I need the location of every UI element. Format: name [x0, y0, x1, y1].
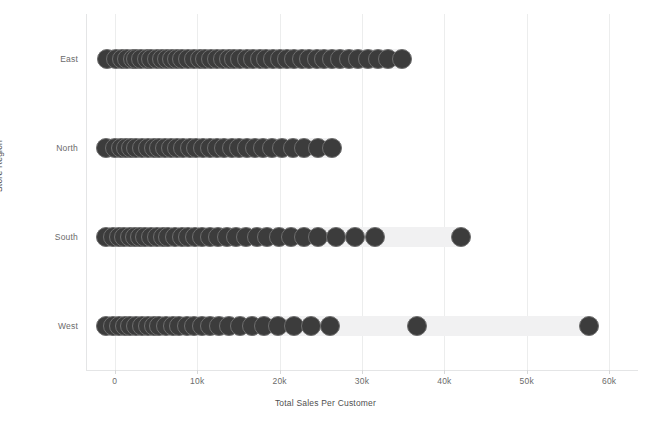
- data-point[interactable]: [579, 316, 599, 336]
- x-tick-label: 10k: [190, 376, 204, 386]
- x-tick-label: 20k: [272, 376, 286, 386]
- x-tick-mark: [280, 370, 281, 374]
- dot-strip-plot-chart: 010k20k30k40k50k60k EastNorthSouthWest T…: [0, 0, 651, 426]
- x-tick-label: 30k: [355, 376, 369, 386]
- data-point[interactable]: [322, 138, 342, 158]
- gridline: [609, 14, 610, 370]
- x-tick-label: 60k: [602, 376, 616, 386]
- x-tick-mark: [609, 370, 610, 374]
- data-point[interactable]: [345, 227, 365, 247]
- data-point[interactable]: [451, 227, 471, 247]
- y-tick-label-west: West: [20, 321, 78, 331]
- y-tick-label-east: East: [20, 54, 78, 64]
- x-tick-label: 50k: [520, 376, 534, 386]
- data-point[interactable]: [320, 316, 340, 336]
- plot-area: [86, 14, 638, 370]
- x-tick-mark: [527, 370, 528, 374]
- x-tick-mark: [444, 370, 445, 374]
- x-tick-mark: [362, 370, 363, 374]
- data-point[interactable]: [365, 227, 385, 247]
- x-tick-mark: [115, 370, 116, 374]
- x-tick-label: 40k: [437, 376, 451, 386]
- data-point[interactable]: [392, 49, 412, 69]
- y-tick-label-north: North: [20, 143, 78, 153]
- data-point[interactable]: [326, 227, 346, 247]
- x-axis-title: Total Sales Per Customer: [0, 398, 651, 408]
- data-point[interactable]: [301, 316, 321, 336]
- y-tick-label-south: South: [20, 232, 78, 242]
- data-point[interactable]: [407, 316, 427, 336]
- x-tick-label: 0: [112, 376, 117, 386]
- y-axis-line: [86, 14, 87, 371]
- y-axis-title: Store Region: [0, 140, 4, 192]
- x-tick-mark: [197, 370, 198, 374]
